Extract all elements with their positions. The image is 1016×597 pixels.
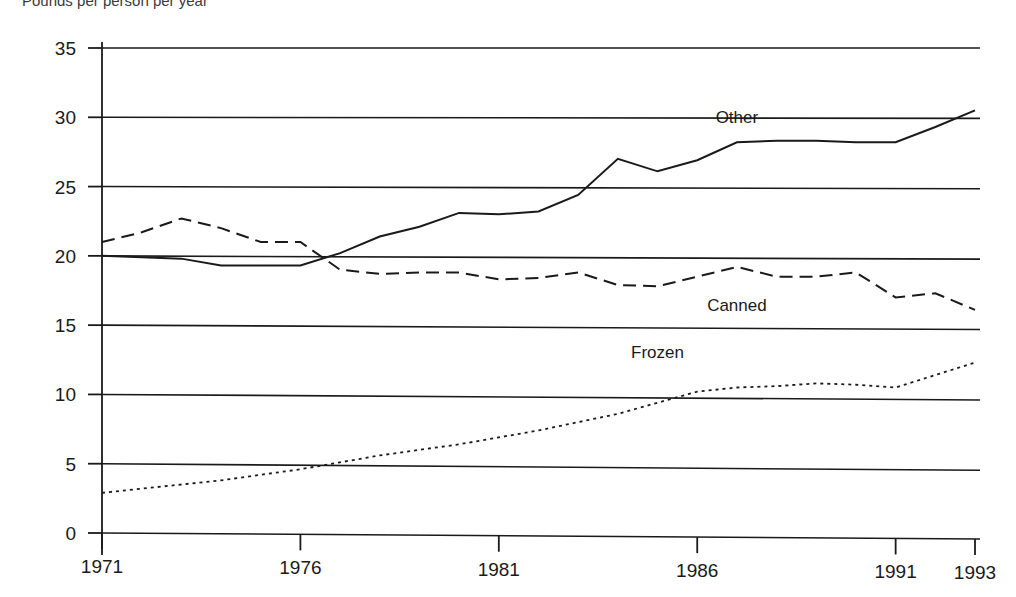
y-tick-label-10: 10 (55, 384, 76, 405)
series-label-canned: Canned (707, 296, 767, 315)
series-label-frozen: Frozen (631, 343, 684, 362)
chart-canvas: Pounds per person per year 0510152025303… (0, 0, 1016, 597)
series-label-other: Other (716, 108, 759, 127)
chart-subtitle-text: Pounds per person per year (22, 0, 208, 9)
x-tick-label-1981: 1981 (478, 559, 520, 580)
y-tick-label-0: 0 (65, 523, 76, 544)
y-tick-label-20: 20 (55, 246, 76, 267)
gridline-30 (102, 117, 980, 118)
x-tick-label-1993: 1993 (954, 562, 996, 583)
x-tick-label-1976: 1976 (279, 557, 321, 578)
x-tick-label-1986: 1986 (676, 560, 718, 581)
y-tick-label-15: 15 (55, 315, 76, 336)
x-tick-label-1971: 1971 (81, 556, 123, 577)
line-chart: Pounds per person per year 0510152025303… (0, 0, 1016, 597)
y-tick-label-35: 35 (55, 38, 76, 59)
chart-subtitle: Pounds per person per year (22, 0, 208, 9)
y-tick-label-25: 25 (55, 177, 76, 198)
y-tick-label-30: 30 (55, 107, 76, 128)
y-tick-label-5: 5 (65, 454, 76, 475)
chart-background (0, 0, 1016, 597)
x-tick-label-1991: 1991 (874, 561, 916, 582)
